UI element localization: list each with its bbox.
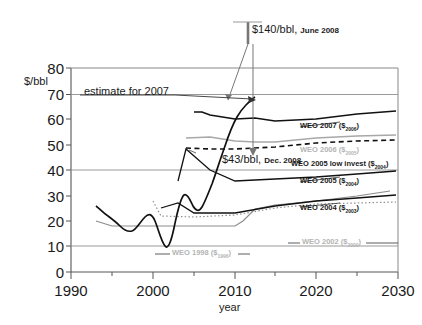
series-historical <box>96 97 255 247</box>
legend-weo-2002-end: ) <box>359 237 362 246</box>
y-tick-0: 0 <box>34 265 64 280</box>
legend-weo-2002-text: WEO 2002 ($ <box>302 237 347 246</box>
legend-weo-2006-text: WEO 2006 ($ <box>300 145 345 154</box>
legend-weo-2005-sub: 2004 <box>345 181 356 187</box>
legend-weo-2005: WEO 2005 ($2004) <box>300 177 359 187</box>
y-tick-30: 30 <box>34 189 64 204</box>
legend-weo-1998: WEO 1998 ($1996) <box>172 249 231 259</box>
legend-low-invest-end: ) <box>386 159 389 168</box>
annotation-peak-price: $140/bbl, June 2008 <box>252 24 339 35</box>
legend-weo-2006: WEO 2006 ($2005) <box>300 146 359 156</box>
y-tick-70: 70 <box>34 87 64 102</box>
legend-weo-2005-low-invest: WEO 2005 low invest ($2004) <box>291 160 388 170</box>
legend-weo-2004-sub: 2003 <box>345 208 356 214</box>
y-tick-20: 20 <box>34 214 64 229</box>
legend-weo-2006-sub: 2005 <box>345 150 356 156</box>
legend-weo-2004: WEO 2004 ($2003) <box>300 204 359 214</box>
legend-low-invest-sub: 2004 <box>375 164 386 170</box>
series-weo-2002 <box>153 201 396 217</box>
x-axis-ticks <box>71 272 398 279</box>
x-tick-1990: 1990 <box>41 283 101 298</box>
oil-price-projection-chart: $/bbl 80 70 60 50 40 30 20 10 0 1990 200… <box>0 0 422 325</box>
series-weo-2005-low-invest <box>186 140 396 149</box>
annotation-peak-value: $140/bbl, <box>252 23 297 35</box>
peak-annotation-leader <box>225 22 262 156</box>
y-axis-ticks <box>66 68 71 272</box>
x-tick-2000: 2000 <box>123 283 183 298</box>
annotation-trough-value: $43/bbl, <box>222 153 261 165</box>
y-tick-40: 40 <box>34 163 64 178</box>
legend-weo-2004-text: WEO 2004 ($ <box>300 203 345 212</box>
legend-low-invest-text: WEO 2005 low invest ($ <box>291 159 375 168</box>
legend-weo-2007-end: ) <box>357 121 360 130</box>
series-weo-2007 <box>194 111 396 121</box>
annotation-estimate-2007: estimate for 2007 <box>84 86 169 97</box>
gridlines <box>71 95 398 247</box>
x-tick-2020: 2020 <box>286 283 346 298</box>
legend-weo-1998-end: ) <box>229 248 232 257</box>
annotation-trough-price: $43/bbl, Dec. 2008 <box>222 154 301 165</box>
legend-weo-2007: WEO 2007 ($2006) <box>300 122 359 132</box>
legend-weo-2005-end: ) <box>357 176 360 185</box>
x-axis-label: year <box>219 302 240 313</box>
y-tick-10: 10 <box>34 239 64 254</box>
legend-weo-2007-sub: 2006 <box>345 126 356 132</box>
y-tick-80: 80 <box>34 61 64 76</box>
legend-weo-2002: WEO 2002 ($2000) <box>302 238 361 248</box>
legend-weo-2004-end: ) <box>357 203 360 212</box>
legend-weo-2006-end: ) <box>357 145 360 154</box>
legend-weo-2005-text: WEO 2005 ($ <box>300 176 345 185</box>
y-axis-label: $/bbl <box>24 76 48 87</box>
legend-weo-1998-sub: 1996 <box>217 253 228 259</box>
legend-weo-2002-sub: 2000 <box>347 242 358 248</box>
x-tick-2030: 2030 <box>368 283 422 298</box>
y-tick-60: 60 <box>34 112 64 127</box>
y-tick-50: 50 <box>34 138 64 153</box>
legend-weo-2007-text: WEO 2007 ($ <box>300 121 345 130</box>
legend-weo-1998-text: WEO 1998 ($ <box>172 248 217 257</box>
annotation-peak-date: June 2008 <box>300 26 339 35</box>
x-tick-2010: 2010 <box>205 283 265 298</box>
